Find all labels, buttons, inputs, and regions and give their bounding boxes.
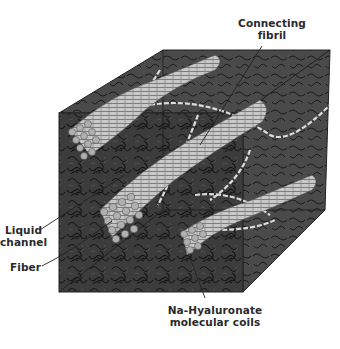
label-connecting-fibril: Connecting fibril bbox=[232, 17, 312, 41]
vitreous-cube-illustration bbox=[0, 0, 340, 349]
label-na-hyaluronate: Na-Hyaluronate molecular coils bbox=[160, 304, 270, 328]
label-liquid-channel: Liquid channel bbox=[0, 224, 42, 248]
label-line: molecular coils bbox=[160, 316, 270, 328]
label-line: Liquid bbox=[0, 224, 42, 236]
label-line: Connecting bbox=[232, 17, 312, 29]
label-line: channel bbox=[0, 236, 42, 248]
label-line: fibril bbox=[232, 29, 312, 41]
label-fiber: Fiber bbox=[0, 261, 41, 273]
diagram-canvas: Connecting fibril Liquid channel Fiber N… bbox=[0, 0, 340, 349]
label-line: Na-Hyaluronate bbox=[160, 304, 270, 316]
